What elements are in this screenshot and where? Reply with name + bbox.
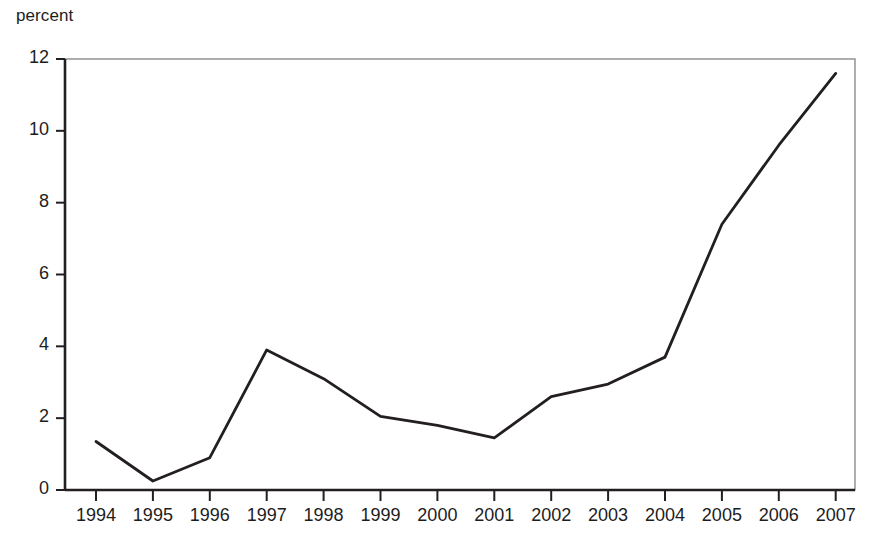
plot-frame xyxy=(65,59,855,490)
y-tick-label: 8 xyxy=(9,191,49,212)
y-tick-label: 6 xyxy=(9,263,49,284)
y-tick-label: 2 xyxy=(9,406,49,427)
x-tick-label: 2005 xyxy=(692,505,752,526)
x-tick-label: 2000 xyxy=(407,505,467,526)
x-tick-label: 2002 xyxy=(521,505,581,526)
x-axis-ticks xyxy=(96,490,836,501)
x-tick-label: 2003 xyxy=(578,505,638,526)
x-tick-label: 1996 xyxy=(180,505,240,526)
y-tick-label: 12 xyxy=(9,47,49,68)
y-tick-label: 10 xyxy=(9,119,49,140)
x-tick-label: 1994 xyxy=(66,505,126,526)
y-axis-ticks xyxy=(56,59,65,490)
chart-container: percent 024681012 1994199519961997199819… xyxy=(0,0,876,550)
x-tick-label: 1995 xyxy=(123,505,183,526)
x-tick-label: 1997 xyxy=(237,505,297,526)
data-series-line xyxy=(96,73,836,481)
x-tick-label: 1999 xyxy=(351,505,411,526)
line-chart-plot xyxy=(0,0,876,550)
y-tick-label: 4 xyxy=(9,334,49,355)
x-tick-label: 1998 xyxy=(294,505,354,526)
x-tick-label: 2001 xyxy=(464,505,524,526)
x-tick-label: 2004 xyxy=(635,505,695,526)
y-tick-label: 0 xyxy=(9,478,49,499)
x-tick-label: 2006 xyxy=(749,505,809,526)
x-tick-label: 2007 xyxy=(806,505,866,526)
